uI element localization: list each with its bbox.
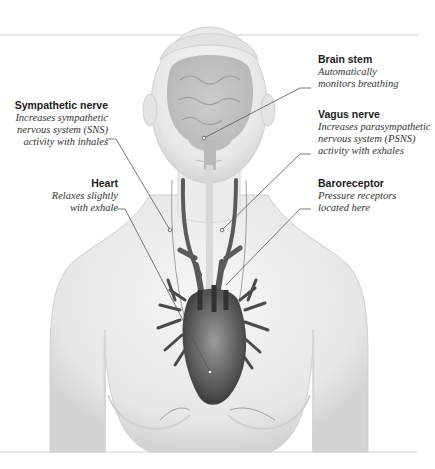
label-description: Automatically monitors breathing [318,66,398,90]
label-sympathetic-nerve: Sympathetic nerve Increases sympathetic … [0,99,108,148]
spinal-column [206,165,213,300]
label-description: Pressure receptors located here [318,190,396,214]
label-title: Heart [0,177,118,189]
label-description: Increases sympathetic nervous system (SN… [0,112,108,148]
label-heart: Heart Relaxes slightly with exhale [0,177,118,214]
label-title: Brain stem [318,53,398,65]
label-description: Relaxes slightly with exhale [0,190,118,214]
head [143,27,275,183]
label-title: Vagus nerve [318,108,435,120]
label-title: Sympathetic nerve [0,99,108,111]
label-baroreceptor: Baroreceptor Pressure receptors located … [318,177,396,214]
label-description: Increases parasympathetic nervous system… [318,121,435,157]
label-title: Baroreceptor [318,177,396,189]
label-vagus-nerve: Vagus nerve Increases parasympathetic ne… [318,108,435,157]
label-brain-stem: Brain stem Automatically monitors breath… [318,53,398,90]
